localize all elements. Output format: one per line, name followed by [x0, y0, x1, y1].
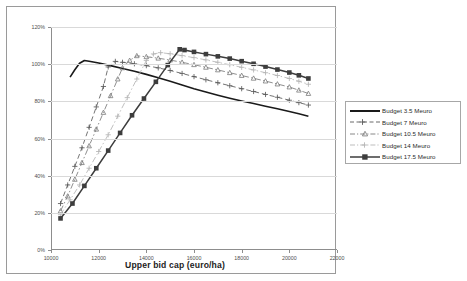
- legend-key-budget-14: [348, 140, 382, 151]
- legend-label-budget-14: Budget 14 Meuro: [382, 142, 430, 149]
- y-tick-label-0: 0%: [15, 247, 45, 253]
- legend-key-budget-3-5: [348, 105, 382, 116]
- gridline-20: [51, 213, 337, 214]
- y-tick-mark-20: [48, 213, 51, 214]
- y-tick-label-100: 100%: [15, 61, 45, 67]
- legend-label-budget-7: Budget 7 Meuro: [382, 119, 427, 126]
- legend-item-budget-7: Budget 7 Meuro: [348, 117, 458, 129]
- legend-key-budget-10-5: [348, 128, 382, 139]
- legend-label-budget-17-5: Budget 17.5 Meuro: [382, 153, 435, 160]
- legend-item-budget-14: Budget 14 Meuro: [348, 140, 458, 152]
- plot-area: [51, 27, 337, 250]
- legend-item-budget-17-5: Budget 17.5 Meuro: [348, 151, 458, 163]
- gridline-40: [51, 176, 337, 177]
- y-tick-label-20: 20%: [15, 210, 45, 216]
- legend-label-budget-10-5: Budget 10.5 Meuro: [382, 130, 435, 137]
- gridline-120: [51, 27, 337, 28]
- y-tick-mark-60: [48, 139, 51, 140]
- chart-screenshot: 0%20%40%60%80%100%120% 10000120001400016…: [0, 0, 467, 281]
- y-tick-label-120: 120%: [15, 24, 45, 30]
- legend-key-budget-7: [348, 117, 382, 128]
- y-tick-mark-120: [48, 27, 51, 28]
- x-tick-mark-18000: [242, 250, 243, 253]
- x-tick-mark-22000: [337, 250, 338, 253]
- legend-label-budget-3-5: Budget 3.5 Meuro: [382, 107, 432, 114]
- y-tick-mark-40: [48, 176, 51, 177]
- legend-item-budget-10-5: Budget 10.5 Meuro: [348, 128, 458, 140]
- chart-frame: 0%20%40%60%80%100%120% 10000120001400016…: [6, 6, 336, 274]
- x-tick-mark-16000: [194, 250, 195, 253]
- y-tick-mark-80: [48, 101, 51, 102]
- y-tick-label-40: 40%: [15, 173, 45, 179]
- y-tick-label-60: 60%: [15, 136, 45, 142]
- gridline-100: [51, 64, 337, 65]
- chart-legend: Budget 3.5 Meuro Budget 7 Meuro Budget 1…: [345, 101, 461, 164]
- gridline-60: [51, 139, 337, 140]
- legend-item-budget-3-5: Budget 3.5 Meuro: [348, 105, 458, 117]
- gridline-80: [51, 101, 337, 102]
- x-tick-mark-20000: [289, 250, 290, 253]
- y-tick-label-80: 80%: [15, 98, 45, 104]
- x-axis-title: Upper bid cap (euro/ha): [7, 260, 343, 270]
- x-tick-mark-14000: [146, 250, 147, 253]
- x-tick-mark-10000: [51, 250, 52, 253]
- legend-key-budget-17-5: [348, 151, 382, 162]
- y-tick-mark-100: [48, 64, 51, 65]
- x-tick-mark-12000: [99, 250, 100, 253]
